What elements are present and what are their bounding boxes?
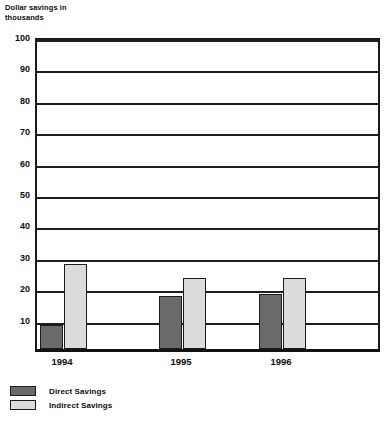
bar-1994-direct <box>40 325 63 349</box>
x-tick-label: 1995 <box>170 356 191 367</box>
x-axis-tick-labels: 199419951996 <box>35 356 380 372</box>
y-tick-label: 40 <box>2 221 30 231</box>
y-tick-label: 90 <box>2 64 30 74</box>
y-tick-label: 80 <box>2 96 30 106</box>
legend-label: Indirect Savings <box>49 401 112 410</box>
x-tick-label: 1996 <box>270 356 291 367</box>
y-axis-label: Dollar savings in thousands <box>5 3 75 22</box>
legend-entry: Direct Savings <box>10 385 170 397</box>
y-tick-label: 60 <box>2 159 30 169</box>
y-tick-label: 50 <box>2 190 30 200</box>
x-tick-label: 1994 <box>51 356 72 367</box>
bar-1995-direct <box>159 296 182 349</box>
y-tick-label: 70 <box>2 127 30 137</box>
y-axis-tick-labels: 102030405060708090100 <box>0 38 30 352</box>
bar-1996-indirect <box>283 278 306 349</box>
bar-1996-direct <box>259 294 282 349</box>
y-tick-label: 10 <box>2 316 30 326</box>
legend-label: Direct Savings <box>49 387 106 396</box>
legend-swatch-direct <box>10 386 36 396</box>
chart-legend: Direct SavingsIndirect Savings <box>10 385 170 413</box>
bar-1995-indirect <box>183 278 206 349</box>
bars-layer <box>37 40 378 349</box>
plot-area <box>35 38 380 352</box>
bar-chart-figure: Dollar savings in thousands 102030405060… <box>0 0 389 424</box>
legend-entry: Indirect Savings <box>10 399 170 411</box>
y-tick-label: 20 <box>2 284 30 294</box>
legend-swatch-indirect <box>10 400 36 410</box>
bar-1994-indirect <box>64 264 87 349</box>
y-tick-label: 100 <box>2 33 30 43</box>
y-tick-label: 30 <box>2 253 30 263</box>
